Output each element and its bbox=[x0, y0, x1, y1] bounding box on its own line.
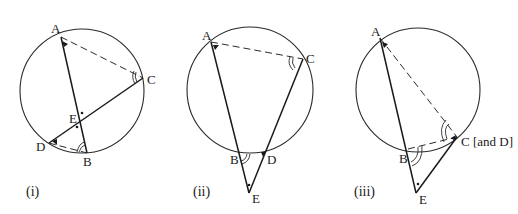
figure-ii: A C B D E (ii) bbox=[187, 27, 315, 206]
angle-dot-e-iii bbox=[417, 183, 420, 186]
label-d-ii: D bbox=[267, 152, 276, 167]
label-e-iii: E bbox=[419, 192, 427, 207]
chord-ab-i bbox=[61, 37, 87, 153]
angle-dot-e-i-2 bbox=[76, 126, 79, 129]
secant-ae-ii bbox=[211, 42, 249, 193]
label-d-i: D bbox=[36, 139, 45, 154]
dashed-ac-i bbox=[61, 37, 143, 78]
label-c-ii: C bbox=[306, 51, 315, 66]
caption-ii: (ii) bbox=[193, 184, 210, 200]
label-b-iii: B bbox=[399, 151, 408, 166]
circle-ii bbox=[187, 27, 313, 153]
angle-arc-c-i-1 bbox=[135, 72, 137, 82]
label-e-i: E bbox=[69, 111, 77, 126]
label-c-i: C bbox=[147, 72, 156, 87]
angle-arc-b-ii-1 bbox=[241, 154, 247, 161]
figure-i: A C E D B (i) bbox=[20, 21, 156, 200]
angle-arc-c-ii-1 bbox=[292, 58, 295, 68]
angle-arc-b-i-1 bbox=[79, 145, 85, 152]
figure-iii: A C [and D] B E (iii) bbox=[354, 24, 513, 207]
label-b-i: B bbox=[83, 154, 92, 169]
circle-theorem-diagrams: A C E D B (i) A C B D E (ii) bbox=[0, 0, 518, 214]
secant-ce-ii bbox=[249, 59, 303, 193]
label-a-iii: A bbox=[371, 24, 381, 39]
angle-arc-b-iii-1 bbox=[411, 147, 418, 162]
angle-arc-b-i-2 bbox=[77, 142, 85, 152]
label-a-ii: A bbox=[202, 28, 212, 43]
caption-iii: (iii) bbox=[354, 184, 375, 200]
angle-arc-b-ii-2 bbox=[242, 154, 250, 164]
label-b-ii: B bbox=[230, 152, 239, 167]
dashed-ac-ii bbox=[211, 42, 303, 59]
angle-dot-e-i-1 bbox=[81, 112, 84, 115]
chord-cd-i bbox=[49, 78, 143, 143]
label-e-ii: E bbox=[252, 191, 260, 206]
angle-mark-a-ii bbox=[213, 45, 219, 50]
label-c-and-d-iii: C [and D] bbox=[461, 134, 513, 149]
caption-i: (i) bbox=[26, 184, 40, 200]
angle-dot-e-ii bbox=[248, 184, 251, 187]
secant-ae-iii bbox=[380, 38, 416, 193]
label-a-i: A bbox=[51, 21, 61, 36]
